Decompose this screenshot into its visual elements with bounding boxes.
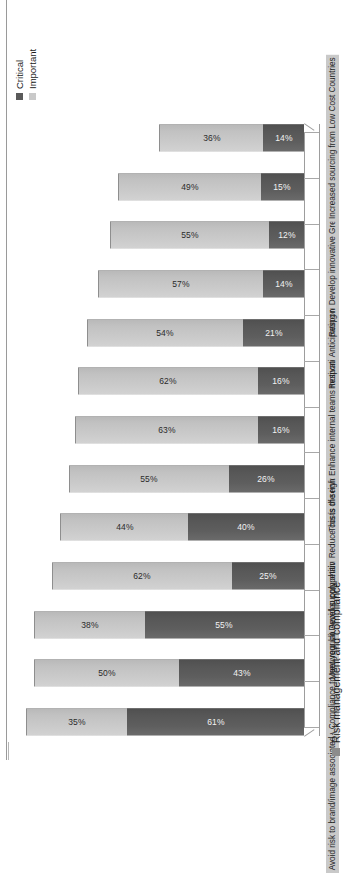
bar-value-label-important: 55% <box>141 474 159 484</box>
bar-value-label-important: 63% <box>158 425 176 435</box>
axis-tick <box>304 407 319 408</box>
bar-value-label-important: 38% <box>81 620 99 630</box>
bar-segment-critical[interactable]: 26% <box>229 465 304 493</box>
bar-value-label-important: 62% <box>159 376 177 386</box>
bar-segment-important[interactable]: 38% <box>34 611 144 639</box>
axis-tick <box>304 544 319 545</box>
bar-segment-important[interactable]: 55% <box>69 465 229 493</box>
bar-segment-critical[interactable]: 12% <box>269 221 304 249</box>
bar-value-label-critical: 21% <box>265 328 283 338</box>
axis-tick <box>304 132 319 133</box>
bar-value-label-important: 35% <box>68 717 86 727</box>
bar-column[interactable]: 38%55% <box>14 611 304 639</box>
bar-segment-important[interactable]: 62% <box>78 367 258 395</box>
axis-tick <box>304 727 319 728</box>
axis-tick <box>304 590 319 591</box>
bar-segment-important[interactable]: 49% <box>118 173 260 201</box>
bar-column[interactable]: 55%26% <box>14 465 304 493</box>
axis-tick <box>304 315 319 316</box>
bar-value-label-critical: 61% <box>207 717 225 727</box>
bar-column[interactable]: 54%21% <box>14 319 304 347</box>
bar-value-label-important: 55% <box>181 230 199 240</box>
bar-column[interactable]: 62%16% <box>14 367 304 395</box>
legend-label-important: Important <box>27 49 38 89</box>
bar-value-label-critical: 26% <box>257 474 275 484</box>
bar-segment-important[interactable]: 35% <box>26 708 128 736</box>
category-label: Increased sourcing from Low Cost Countri… <box>326 124 348 152</box>
bar-segment-important[interactable]: 44% <box>60 513 188 541</box>
bar-value-label-critical: 16% <box>272 425 290 435</box>
bar-segment-critical[interactable]: 55% <box>145 611 305 639</box>
legend-label-critical: Critical <box>14 60 25 89</box>
bar-column[interactable]: 63%16% <box>14 416 304 444</box>
bar-segment-critical[interactable]: 15% <box>261 173 305 201</box>
bar-segment-critical[interactable]: 25% <box>232 562 305 590</box>
series-legend: Critical Important <box>14 12 40 100</box>
chart-frame-line <box>6 0 7 760</box>
axis-base-bottom-edge <box>319 124 320 736</box>
bar-value-label-important: 57% <box>172 279 190 289</box>
bar-segment-critical[interactable]: 14% <box>263 270 304 298</box>
axis-base <box>304 124 320 736</box>
bar-value-label-critical: 15% <box>273 182 291 192</box>
bar-value-label-critical: 12% <box>278 230 296 240</box>
bar-segment-critical[interactable]: 21% <box>243 319 304 347</box>
bar-segment-important[interactable]: 36% <box>159 124 263 152</box>
bar-value-label-critical: 43% <box>233 668 251 678</box>
group-legend: Risk management and compliance <box>330 436 345 756</box>
bar-value-label-important: 62% <box>133 571 151 581</box>
axis-tick <box>304 269 319 270</box>
bar-segment-important[interactable]: 63% <box>75 416 258 444</box>
plot-area: 35%61%50%43%38%55%62%25%44%40%55%26%63%1… <box>14 124 304 736</box>
axis-tick <box>304 452 319 453</box>
axis-tick <box>304 361 319 362</box>
bar-segment-important[interactable]: 54% <box>87 319 244 347</box>
group-legend-swatch-icon <box>332 748 340 756</box>
bar-segment-important[interactable]: 50% <box>34 659 179 687</box>
bar-value-label-important: 54% <box>157 328 175 338</box>
category-label-text: Increased sourcing from Low Cost Countri… <box>326 54 339 222</box>
bar-column[interactable]: 44%40% <box>14 513 304 541</box>
legend-item-critical[interactable]: Critical <box>14 12 25 100</box>
legend-swatch-critical-icon <box>16 93 23 100</box>
bar-value-label-important: 49% <box>181 182 199 192</box>
axis-tick <box>304 681 319 682</box>
bar-column[interactable]: 35%61% <box>14 708 304 736</box>
bar-column[interactable]: 57%14% <box>14 270 304 298</box>
bar-segment-important[interactable]: 62% <box>52 562 232 590</box>
legend-swatch-important-icon <box>29 93 36 100</box>
bar-value-label-important: 36% <box>203 133 221 143</box>
bar-segment-critical[interactable]: 16% <box>258 416 304 444</box>
bar-value-label-important: 44% <box>116 522 134 532</box>
bar-column[interactable]: 49%15% <box>14 173 304 201</box>
axis-tick <box>304 178 319 179</box>
bar-column[interactable]: 62%25% <box>14 562 304 590</box>
chart-frame-line-secondary <box>8 742 9 760</box>
bar-segment-important[interactable]: 55% <box>110 221 270 249</box>
axis-tick <box>304 498 319 499</box>
bar-segment-critical[interactable]: 16% <box>258 367 304 395</box>
bar-column[interactable]: 55%12% <box>14 221 304 249</box>
bar-segment-critical[interactable]: 40% <box>188 513 304 541</box>
bar-segment-critical[interactable]: 61% <box>127 708 304 736</box>
bar-column[interactable]: 36%14% <box>14 124 304 152</box>
bar-segment-critical[interactable]: 14% <box>263 124 304 152</box>
bar-value-label-critical: 55% <box>215 620 233 630</box>
group-legend-label: Risk management and compliance <box>330 582 342 743</box>
group-legend-item-risk-management[interactable]: Risk management and compliance <box>330 436 342 756</box>
legend-item-important[interactable]: Important <box>27 12 38 100</box>
bar-value-label-important: 50% <box>99 668 117 678</box>
bar-value-label-critical: 14% <box>275 279 293 289</box>
bar-segment-critical[interactable]: 43% <box>179 659 304 687</box>
bar-value-label-critical: 16% <box>272 376 290 386</box>
bar-value-label-critical: 14% <box>275 133 293 143</box>
bar-series-container: 35%61%50%43%38%55%62%25%44%40%55%26%63%1… <box>14 124 304 736</box>
axis-ticks <box>304 132 319 728</box>
bar-value-label-critical: 25% <box>259 571 277 581</box>
bar-column[interactable]: 50%43% <box>14 659 304 687</box>
bar-segment-important[interactable]: 57% <box>98 270 263 298</box>
axis-tick <box>304 635 319 636</box>
bar-value-label-critical: 40% <box>237 522 255 532</box>
